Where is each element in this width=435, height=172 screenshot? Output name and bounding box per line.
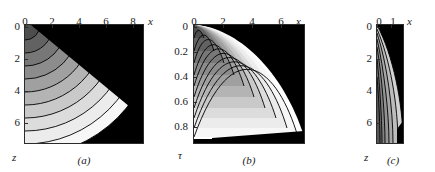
panel-a-yaxis-label: z bbox=[12, 152, 16, 163]
panel-a-caption: (a) bbox=[78, 154, 91, 166]
panel-b-caption: (b) bbox=[243, 154, 256, 166]
panel-a-ytick-1: 2 bbox=[8, 53, 20, 64]
panel-b-tickmark-x3 bbox=[281, 25, 282, 28]
panel-b-tickmark-y2 bbox=[194, 77, 197, 78]
figure-container: 0 2 4 6 8 x 0 2 4 6 z bbox=[0, 0, 435, 172]
panel-c-plot-area bbox=[376, 24, 404, 144]
panel-c-tickmark-y0 bbox=[377, 27, 380, 28]
panel-a-tickmark-y3 bbox=[25, 123, 28, 124]
panel-c: 0 1 x 0 2 4 6 z bbox=[310, 0, 435, 172]
panel-a-tickmark-x1 bbox=[52, 25, 53, 28]
panel-a-tickmark-x4 bbox=[133, 25, 134, 28]
panel-b-contour-svg bbox=[194, 25, 304, 143]
panel-b-ytick-4: 0.8 bbox=[162, 121, 188, 132]
panel-c-caption: (c) bbox=[387, 154, 399, 166]
panel-b-tickmark-y1 bbox=[194, 52, 197, 53]
panel-c-tickmark-x1 bbox=[391, 25, 392, 28]
panel-b: 0 2 4 6 x 0 0.2 0.4 0.6 0.8 τ bbox=[160, 0, 310, 172]
panel-b-tickmark-y0 bbox=[194, 27, 197, 28]
panel-c-ytick-1: 2 bbox=[360, 53, 372, 64]
panel-b-ytick-3: 0.6 bbox=[162, 96, 188, 107]
panel-c-tickmark-y3 bbox=[377, 123, 380, 124]
panel-a-contour-svg bbox=[25, 25, 143, 143]
panel-c-ytick-0: 0 bbox=[360, 21, 372, 32]
panel-a-tickmark-x2 bbox=[79, 25, 80, 28]
panel-c-ytick-2: 4 bbox=[360, 85, 372, 96]
panel-b-ytick-2: 0.4 bbox=[162, 71, 188, 82]
panel-b-tickmark-x1 bbox=[223, 25, 224, 28]
panel-a-tickmark-y1 bbox=[25, 59, 28, 60]
panel-b-plot-area bbox=[193, 24, 305, 144]
panel-c-tickmark-y1 bbox=[377, 59, 380, 60]
panel-b-yaxis-label: τ bbox=[178, 150, 182, 161]
panel-b-ytick-1: 0.2 bbox=[162, 46, 188, 57]
panel-a-plot-area bbox=[24, 24, 144, 144]
panel-a-tickmark-x3 bbox=[106, 25, 107, 28]
panel-c-yaxis-label: z bbox=[364, 152, 368, 163]
panel-b-tickmark-y4 bbox=[194, 127, 197, 128]
panel-a-ytick-2: 4 bbox=[8, 85, 20, 96]
panel-c-xaxis-label: x bbox=[407, 16, 412, 27]
panel-a-ytick-3: 6 bbox=[8, 117, 20, 128]
panel-c-contour-svg bbox=[377, 25, 403, 143]
panel-a: 0 2 4 6 8 x 0 2 4 6 z bbox=[0, 0, 160, 172]
panel-a-ytick-0: 0 bbox=[8, 21, 20, 32]
panel-a-xaxis-label: x bbox=[148, 16, 153, 27]
panel-a-tickmark-y0 bbox=[25, 27, 28, 28]
panel-a-tickmark-y2 bbox=[25, 91, 28, 92]
panel-c-tickmark-y2 bbox=[377, 91, 380, 92]
panel-c-ytick-3: 6 bbox=[360, 117, 372, 128]
panel-b-ytick-0: 0 bbox=[162, 21, 188, 32]
panel-b-tickmark-x2 bbox=[252, 25, 253, 28]
panel-b-tickmark-y3 bbox=[194, 102, 197, 103]
